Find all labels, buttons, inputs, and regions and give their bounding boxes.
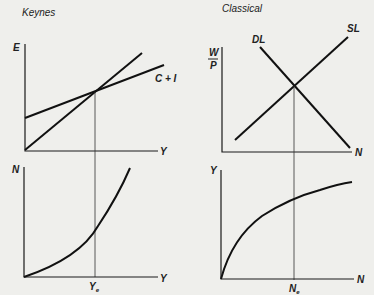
labor-supply-line: [235, 37, 348, 140]
e-axis-label: E: [13, 42, 20, 53]
classical-top-n-axis-label: N: [355, 147, 363, 158]
c-plus-i-label: C + I: [155, 73, 177, 84]
keynes-top-axes: [25, 44, 158, 151]
ne-label: Ne: [289, 283, 300, 295]
keynes-top-y-axis-label: Y: [160, 146, 168, 157]
n-axis-label: N: [12, 164, 20, 175]
classical-production-chart: Y N Ne: [210, 165, 365, 295]
sl-label: SL: [347, 23, 360, 34]
ye-label: Ye: [89, 281, 100, 293]
keynes-panel: Keynes E Y C + I N Y Ye: [12, 7, 177, 293]
dl-label: DL: [252, 34, 265, 45]
production-function-curve: [221, 182, 352, 279]
labor-demand-line: [260, 47, 350, 148]
classical-bottom-n-axis-label: N: [357, 274, 365, 285]
keynes-bottom-axes: [24, 167, 158, 277]
p-label: P: [210, 60, 217, 71]
keynes-bottom-y-axis-label: Y: [160, 273, 168, 284]
classical-labor-market-chart: W P N DL SL: [208, 23, 363, 158]
y-axis-label: Y: [210, 165, 218, 176]
classical-panel: Classical W P N DL SL Y N Ne: [208, 3, 365, 295]
classical-top-axes: [222, 47, 352, 152]
keynes-employment-curve: [24, 168, 130, 277]
45-degree-line: [25, 53, 142, 150]
keynes-title: Keynes: [22, 7, 55, 18]
c-plus-i-line: [25, 65, 164, 118]
w-label: W: [209, 47, 220, 58]
classical-title: Classical: [222, 3, 263, 14]
keynes-employment-chart: N Y Ye: [12, 164, 168, 293]
diagram-canvas: Keynes E Y C + I N Y Ye Classical W P: [0, 0, 374, 295]
